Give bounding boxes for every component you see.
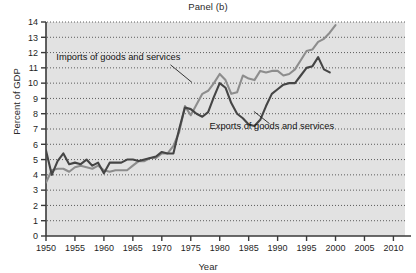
y-tick-label: 13 [28,33,38,43]
x-tick-label: 1995 [297,243,317,253]
x-tick-label: 1970 [152,243,172,253]
y-tick-label: 14 [28,17,38,27]
y-tick-label: 6 [33,140,38,150]
x-tick-label: 1980 [210,243,230,253]
y-tick-label: 8 [33,109,38,119]
x-tick-label: 1975 [181,243,201,253]
x-tick-label: 1955 [65,243,85,253]
annotation-exports-label: Exports of goods and services [210,121,335,131]
x-tick-label: 2010 [383,243,403,253]
x-tick-label: 1965 [123,243,143,253]
y-tick-label: 12 [28,48,38,58]
x-tick-label: 1950 [36,243,56,253]
y-tick-label: 0 [33,231,38,241]
x-tick-label: 2005 [354,243,374,253]
y-tick-label: 5 [33,155,38,165]
y-tick-label: 1 [33,216,38,226]
annotation-imports-label: Imports of goods and services [56,52,180,62]
x-axis-ticks: 1950195519601965197019751980198519901995… [36,236,403,253]
x-tick-label: 2000 [326,243,346,253]
y-tick-label: 3 [33,185,38,195]
chart-plot: 01234567891011121314 1950195519601965197… [0,0,416,273]
y-tick-label: 4 [33,170,38,180]
y-tick-label: 7 [33,124,38,134]
x-tick-label: 1985 [239,243,259,253]
y-tick-label: 11 [29,63,38,73]
y-axis-ticks: 01234567891011121314 [28,17,46,241]
y-tick-label: 10 [28,78,38,88]
x-tick-label: 1960 [94,243,114,253]
y-tick-label: 2 [33,201,38,211]
y-tick-label: 9 [33,94,38,104]
x-tick-label: 1990 [268,243,288,253]
chart-container: Panel (b) Percent of GDP Year 0123456789… [0,0,416,273]
